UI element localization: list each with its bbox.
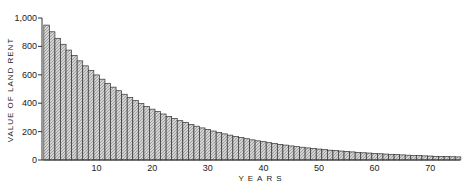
bar-year-6 <box>72 56 78 160</box>
bar-year-70 <box>427 156 433 160</box>
bar-year-28 <box>194 126 200 160</box>
bar-year-22 <box>161 114 167 160</box>
bar-year-15 <box>122 94 128 160</box>
x-tick-label: 30 <box>203 163 213 173</box>
bar-year-45 <box>288 146 294 160</box>
bar-year-9 <box>88 71 94 160</box>
bar-year-8 <box>83 66 89 160</box>
bar-year-64 <box>394 155 400 160</box>
y-tick-label: 0 <box>32 155 37 165</box>
bar-year-65 <box>400 155 406 160</box>
bar-year-31 <box>211 131 217 160</box>
bar-year-21 <box>155 112 161 160</box>
bar-year-5 <box>66 50 72 160</box>
x-tick-label: 70 <box>425 163 435 173</box>
bar-year-20 <box>149 109 155 160</box>
bar-year-11 <box>99 79 105 160</box>
bar-year-4 <box>60 44 66 160</box>
bar-year-37 <box>244 139 250 160</box>
bar-year-33 <box>222 134 228 160</box>
bar-year-16 <box>127 98 133 160</box>
x-tick-label: 10 <box>92 163 102 173</box>
bar-year-18 <box>138 104 144 160</box>
y-tick-label: 800 <box>22 41 37 51</box>
bar-year-34 <box>227 135 233 160</box>
x-tick-label: 50 <box>314 163 324 173</box>
bar-year-47 <box>300 147 306 160</box>
bar-year-54 <box>338 151 344 160</box>
bar-year-48 <box>305 148 311 160</box>
land-rent-bar-chart: 02004006008001,000 10203040506070 VALUE … <box>0 0 469 187</box>
x-tick-label: 20 <box>147 163 157 173</box>
y-tick-label: 200 <box>22 127 37 137</box>
bar-year-40 <box>261 142 267 160</box>
bar-year-69 <box>422 156 428 160</box>
y-axis-title: VALUE OF LAND RENT <box>6 38 15 143</box>
bar-year-14 <box>116 91 122 160</box>
x-axis-title: YEARS <box>238 174 285 183</box>
bar-year-3 <box>55 38 61 160</box>
bar-year-39 <box>255 141 261 160</box>
bar-year-51 <box>322 150 328 160</box>
bar-year-52 <box>327 150 333 160</box>
bar-year-57 <box>355 152 361 160</box>
bar-year-13 <box>111 87 117 160</box>
bar-year-46 <box>294 147 300 160</box>
bar-year-53 <box>333 151 339 160</box>
bar-year-41 <box>266 143 272 160</box>
bar-year-58 <box>361 153 367 160</box>
y-tick-label: 600 <box>22 70 37 80</box>
bar-year-56 <box>350 152 356 160</box>
bar-year-42 <box>272 144 278 160</box>
bar-year-7 <box>77 61 83 160</box>
bar-year-38 <box>250 140 256 160</box>
bar-year-73 <box>444 157 450 160</box>
bar-year-68 <box>416 156 422 160</box>
bar-year-49 <box>311 149 317 161</box>
x-tick-label: 40 <box>258 163 268 173</box>
bar-year-36 <box>238 138 244 160</box>
bar-year-29 <box>199 128 205 160</box>
x-tick-label: 60 <box>370 163 380 173</box>
bar-year-27 <box>188 125 194 161</box>
bar-year-60 <box>372 153 378 160</box>
bar-year-2 <box>49 32 55 160</box>
bar-year-26 <box>183 123 189 160</box>
bar-year-24 <box>172 119 178 160</box>
bar-year-67 <box>411 155 417 160</box>
bar-year-59 <box>366 153 372 160</box>
bar-year-19 <box>144 106 150 160</box>
bar-year-10 <box>94 75 100 160</box>
bar-year-50 <box>316 149 322 160</box>
y-tick-label: 1,000 <box>14 13 37 23</box>
bar-year-1 <box>44 25 50 160</box>
bar-year-72 <box>439 156 445 160</box>
y-ticks: 02004006008001,000 <box>14 13 42 165</box>
bar-year-30 <box>205 129 211 160</box>
bar-year-66 <box>405 155 411 160</box>
bar-year-32 <box>216 132 222 160</box>
x-ticks: 10203040506070 <box>92 163 436 173</box>
bar-year-61 <box>377 154 383 160</box>
bar-year-25 <box>177 121 183 160</box>
bar-year-23 <box>166 116 172 160</box>
bar-year-17 <box>133 101 139 160</box>
bars-group <box>44 25 461 160</box>
bar-year-43 <box>277 144 283 160</box>
bar-year-44 <box>283 145 289 160</box>
bar-year-71 <box>433 156 439 160</box>
bar-year-55 <box>344 151 350 160</box>
y-tick-label: 400 <box>22 98 37 108</box>
bar-year-62 <box>383 154 389 160</box>
bar-year-12 <box>105 83 111 160</box>
bar-year-35 <box>233 136 239 160</box>
bar-year-63 <box>389 154 395 160</box>
